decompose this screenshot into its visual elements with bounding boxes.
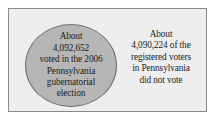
figure-root: About 4,092,652 voted in the 2006 Pennsy… <box>0 0 215 121</box>
voted-line-1: About <box>26 31 116 42</box>
notvoted-line-2: 4,090,224 of the <box>116 40 206 51</box>
notvoted-line-4: in Pennsylvania <box>116 63 206 74</box>
notvoted-line-5: did not vote <box>116 75 206 86</box>
voted-circle-label: About 4,092,652 voted in the 2006 Pennsy… <box>26 31 116 99</box>
voted-line-5: gubernatorial <box>26 77 116 88</box>
voted-line-4: Pennsylvania <box>26 66 116 77</box>
diagram-panel: About 4,092,652 voted in the 2006 Pennsy… <box>8 8 207 112</box>
notvoted-line-1: About <box>116 29 206 40</box>
voted-line-2: 4,092,652 <box>26 43 116 54</box>
did-not-vote-region: About 4,090,224 of the registered voters… <box>116 29 206 86</box>
voted-line-3: voted in the 2006 <box>26 54 116 65</box>
voted-circle: About 4,092,652 voted in the 2006 Pennsy… <box>25 24 117 107</box>
voted-line-6: election <box>26 88 116 99</box>
notvoted-line-3: registered voters <box>116 52 206 63</box>
did-not-vote-label: About 4,090,224 of the registered voters… <box>116 29 206 86</box>
